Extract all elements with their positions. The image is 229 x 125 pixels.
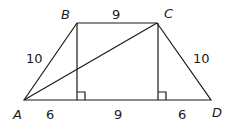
right-angle-mark-c <box>158 92 166 100</box>
length-bc: 9 <box>112 7 120 22</box>
length-cd: 10 <box>193 51 210 66</box>
right-angle-mark-b <box>77 92 85 100</box>
vertex-label-c: C <box>164 6 174 21</box>
trapezoid-diagram: A B C D 10 9 10 6 9 6 <box>0 0 229 125</box>
vertex-label-a: A <box>12 107 22 122</box>
vertex-label-b: B <box>61 7 70 22</box>
length-a-to-b-foot: 6 <box>46 107 54 122</box>
vertex-label-d: D <box>212 105 222 120</box>
trapezoid-outline <box>24 23 211 100</box>
diagonal-ac <box>24 23 157 100</box>
length-c-foot-to-d: 6 <box>178 107 186 122</box>
length-b-foot-to-c-foot: 9 <box>114 107 122 122</box>
length-ab: 10 <box>26 51 43 66</box>
